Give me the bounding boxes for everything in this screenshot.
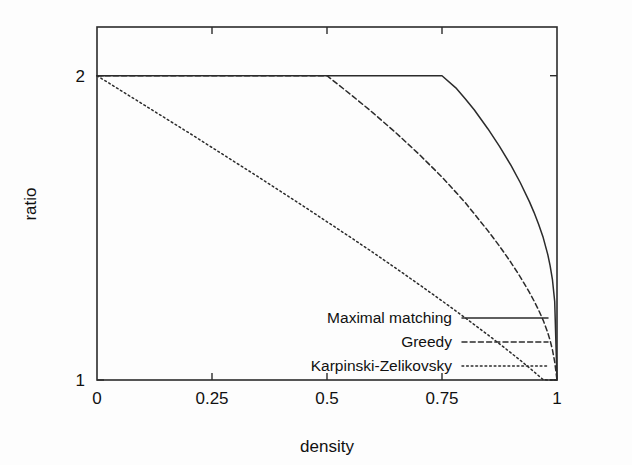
series-path-karpinski-zelikovsky [97, 76, 557, 380]
x-tick-label: 0.5 [315, 389, 339, 408]
ratio-vs-density-line-chart: 00.250.50.751 12 density ratio Maximal m… [0, 0, 632, 465]
legend: Maximal matchingGreedyKarpinski-Zelikovs… [311, 309, 548, 374]
series-paths-group [97, 76, 557, 380]
y-tick-label: 2 [76, 67, 85, 86]
x-tick-label: 1 [552, 389, 561, 408]
y-axis-tick-labels: 12 [76, 67, 85, 390]
x-axis-ticks-top [212, 27, 442, 34]
x-axis-title: density [300, 437, 354, 456]
y-axis-title: ratio [21, 187, 40, 220]
y-axis-ticks-left [97, 76, 104, 380]
x-axis-ticks-bottom [212, 373, 442, 380]
y-tick-label: 1 [76, 371, 85, 390]
x-tick-label: 0 [92, 389, 101, 408]
legend-label-maximal-matching: Maximal matching [327, 309, 452, 326]
x-tick-label: 0.25 [195, 389, 228, 408]
figure-container: 00.250.50.751 12 density ratio Maximal m… [0, 0, 632, 465]
legend-label-karpinski-zelikovsky: Karpinski-Zelikovsky [311, 357, 453, 374]
x-axis-tick-labels: 00.250.50.751 [92, 389, 561, 408]
plot-frame [97, 27, 557, 380]
x-tick-label: 0.75 [425, 389, 458, 408]
legend-label-greedy: Greedy [401, 333, 452, 350]
